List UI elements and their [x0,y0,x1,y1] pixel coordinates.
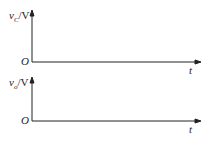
top-y-label: vC/V [9,9,30,24]
top-x-label: t [189,64,192,76]
top-y-unit: /V [19,9,30,21]
bottom-y-label: vo/V [9,76,28,91]
bottom-x-label: t [189,123,192,135]
top-origin-label: O [21,55,29,67]
top-x-arrow-icon [195,60,201,64]
bottom-y-unit: /V [17,76,28,88]
top-y-arrow-icon [30,10,34,16]
axes-drawing [0,0,206,147]
bottom-y-arrow-icon [30,77,34,83]
bottom-origin-label: O [21,114,29,126]
bottom-x-arrow-icon [195,119,201,123]
